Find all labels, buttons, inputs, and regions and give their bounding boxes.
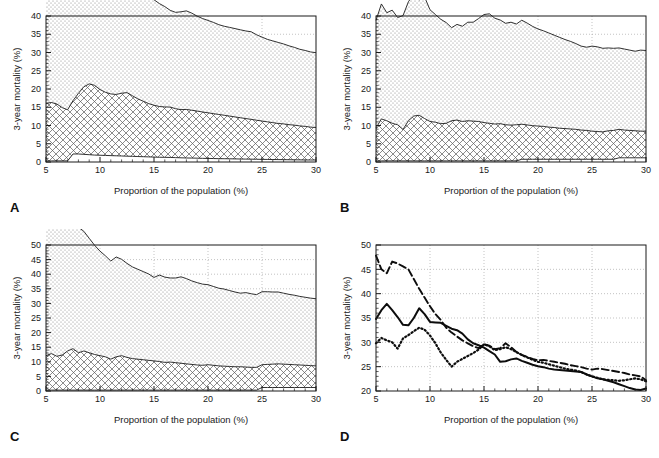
panel-d-plot: 5101520253020253035404550Proportion of t… — [330, 229, 659, 458]
svg-text:5: 5 — [43, 394, 48, 404]
svg-text:25: 25 — [31, 313, 41, 323]
panel-d-letter: D — [340, 429, 350, 444]
svg-text:10: 10 — [31, 121, 41, 131]
svg-text:30: 30 — [641, 394, 651, 404]
svg-text:45: 45 — [361, 265, 371, 275]
svg-text:40: 40 — [361, 11, 371, 21]
svg-text:25: 25 — [587, 165, 597, 175]
svg-text:40: 40 — [31, 269, 41, 279]
svg-text:20: 20 — [203, 394, 213, 404]
svg-text:30: 30 — [361, 338, 371, 348]
panel-b: 510152025300510152025303540Proportion of… — [330, 0, 659, 229]
svg-text:20: 20 — [361, 84, 371, 94]
svg-text:0: 0 — [36, 386, 41, 396]
svg-text:35: 35 — [31, 29, 41, 39]
svg-text:50: 50 — [361, 240, 371, 250]
svg-text:35: 35 — [361, 29, 371, 39]
svg-text:15: 15 — [479, 165, 489, 175]
svg-text:25: 25 — [257, 394, 267, 404]
svg-text:25: 25 — [587, 394, 597, 404]
svg-text:30: 30 — [641, 165, 651, 175]
panel-c-plot: 5101520253005101520253035404550Proportio… — [0, 229, 329, 458]
svg-text:0: 0 — [366, 157, 371, 167]
svg-text:20: 20 — [533, 165, 543, 175]
panel-a: 510152025300510152025303540Proportion of… — [0, 0, 329, 229]
svg-text:5: 5 — [373, 165, 378, 175]
svg-text:5: 5 — [43, 165, 48, 175]
svg-text:20: 20 — [361, 386, 371, 396]
svg-text:30: 30 — [361, 48, 371, 58]
svg-text:5: 5 — [36, 139, 41, 149]
svg-text:40: 40 — [361, 289, 371, 299]
svg-text:35: 35 — [31, 284, 41, 294]
figure-container: 510152025300510152025303540Proportion of… — [0, 0, 659, 458]
svg-text:3-year mortality (%): 3-year mortality (%) — [341, 48, 352, 131]
panel-c: 5101520253005101520253035404550Proportio… — [0, 229, 329, 458]
svg-text:3-year mortality (%): 3-year mortality (%) — [11, 48, 22, 131]
svg-text:30: 30 — [311, 165, 321, 175]
svg-text:30: 30 — [311, 394, 321, 404]
svg-text:30: 30 — [31, 299, 41, 309]
svg-text:45: 45 — [31, 255, 41, 265]
svg-text:15: 15 — [31, 102, 41, 112]
panel-d: 5101520253020253035404550Proportion of t… — [330, 229, 659, 458]
svg-text:25: 25 — [361, 66, 371, 76]
svg-text:10: 10 — [95, 165, 105, 175]
svg-text:25: 25 — [361, 362, 371, 372]
svg-text:20: 20 — [31, 328, 41, 338]
svg-text:15: 15 — [149, 165, 159, 175]
svg-text:20: 20 — [203, 165, 213, 175]
svg-text:3-year mortality (%): 3-year mortality (%) — [11, 277, 22, 360]
panel-b-plot: 510152025300510152025303540Proportion of… — [330, 0, 659, 229]
svg-text:25: 25 — [257, 165, 267, 175]
svg-text:0: 0 — [36, 157, 41, 167]
svg-text:35: 35 — [361, 313, 371, 323]
svg-text:15: 15 — [479, 394, 489, 404]
panel-a-letter: A — [10, 200, 20, 215]
svg-text:10: 10 — [31, 357, 41, 367]
panel-c-letter: C — [10, 429, 20, 444]
svg-text:50: 50 — [31, 240, 41, 250]
panel-a-plot: 510152025300510152025303540Proportion of… — [0, 0, 329, 229]
panel-b-letter: B — [340, 200, 350, 215]
svg-text:Proportion of the population (: Proportion of the population (%) — [444, 185, 578, 196]
svg-text:15: 15 — [149, 394, 159, 404]
svg-text:20: 20 — [533, 394, 543, 404]
svg-text:25: 25 — [31, 66, 41, 76]
svg-text:10: 10 — [425, 165, 435, 175]
svg-text:40: 40 — [31, 11, 41, 21]
svg-text:5: 5 — [373, 394, 378, 404]
svg-text:5: 5 — [36, 372, 41, 382]
svg-text:5: 5 — [366, 139, 371, 149]
svg-text:10: 10 — [95, 394, 105, 404]
svg-text:20: 20 — [31, 84, 41, 94]
svg-text:10: 10 — [425, 394, 435, 404]
svg-text:10: 10 — [361, 121, 371, 131]
svg-text:Proportion of the population (: Proportion of the population (%) — [444, 414, 578, 425]
svg-text:30: 30 — [31, 48, 41, 58]
svg-text:Proportion of the population (: Proportion of the population (%) — [114, 414, 248, 425]
svg-text:3-year mortality (%): 3-year mortality (%) — [341, 277, 352, 360]
svg-text:15: 15 — [31, 342, 41, 352]
svg-text:15: 15 — [361, 102, 371, 112]
svg-text:Proportion of the population (: Proportion of the population (%) — [114, 185, 248, 196]
